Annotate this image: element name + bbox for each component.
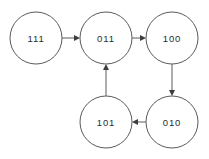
- node-111[interactable]: 111: [10, 12, 62, 64]
- node-label: 100: [163, 33, 182, 44]
- node-101[interactable]: 101: [80, 96, 132, 148]
- node-label: 101: [97, 117, 116, 128]
- edge-100-to-010: [169, 64, 175, 96]
- arrowhead-right-icon: [74, 35, 80, 41]
- arrowhead-left-icon: [132, 119, 138, 125]
- edge-101-to-011: [103, 64, 109, 96]
- arrowhead-right-icon: [140, 35, 146, 41]
- node-label: 111: [27, 33, 44, 44]
- arrowhead-down-icon: [169, 90, 175, 96]
- arrowhead-up-icon: [103, 64, 109, 70]
- state-diagram-canvas: 111 011 100 101 010: [0, 0, 209, 159]
- state-diagram: 111 011 100 101 010: [0, 0, 209, 159]
- node-010[interactable]: 010: [146, 96, 198, 148]
- edge-111-to-011: [62, 35, 80, 41]
- edge-010-to-101: [132, 119, 146, 125]
- node-011[interactable]: 011: [80, 12, 132, 64]
- node-label: 011: [97, 33, 115, 44]
- node-100[interactable]: 100: [146, 12, 198, 64]
- node-label: 010: [163, 117, 182, 128]
- edge-011-to-100: [132, 35, 146, 41]
